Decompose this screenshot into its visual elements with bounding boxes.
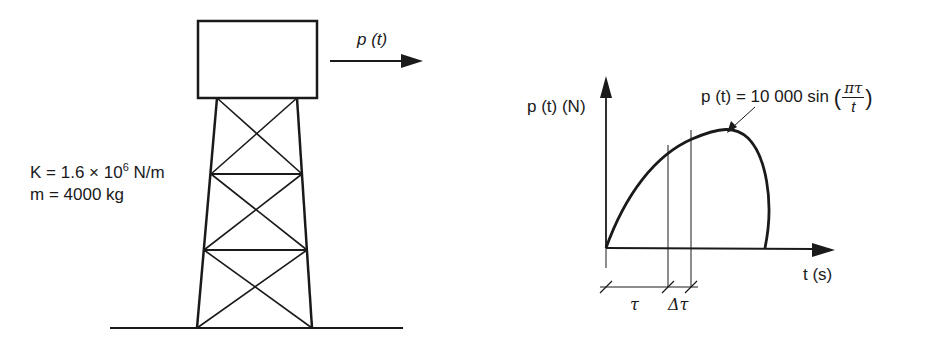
x-axis-arrowhead-icon [812,243,835,257]
equation-fraction: πτt [842,81,864,114]
stiffness-label: K = 1.6 × 106 N/m [30,162,165,181]
force-label: p (t) [357,31,387,48]
brace-diagonal [204,174,302,250]
brace-diagonal [197,250,307,328]
load-curve [606,129,769,248]
stiffness-text: K = 1.6 × 10 [30,163,123,182]
x-axis [606,248,815,249]
tau-label: τ [630,297,639,313]
force-arrow [330,54,423,68]
equation-denominator: t [842,98,864,114]
brace-diagonal [217,98,302,174]
stiffness-exponent: 6 [123,161,129,173]
y-axis-label: p (t) (N) [527,98,586,115]
y-axis-arrowhead-icon [600,76,612,98]
delta-tau-label: Δτ [668,297,688,313]
brace-diagonal [211,174,307,250]
paren-close: ) [865,85,872,110]
equation-lhs: p (t) = 10 000 sin [701,87,829,106]
tower-leg-left [197,98,217,328]
tower-leg-right [297,98,312,328]
equation-numerator: πτ [842,81,864,98]
stiffness-unit: N/m [134,163,165,182]
brace-diagonal [204,250,312,328]
equation-label: p (t) = 10 000 sin (πτt) [701,81,873,114]
paren-open: ( [834,85,841,110]
brace-diagonal [211,98,297,174]
arrowhead-icon [401,54,423,68]
mass-label: m = 4000 kg [30,186,124,203]
mass-block [198,21,317,98]
x-axis-label: t (s) [803,266,832,283]
